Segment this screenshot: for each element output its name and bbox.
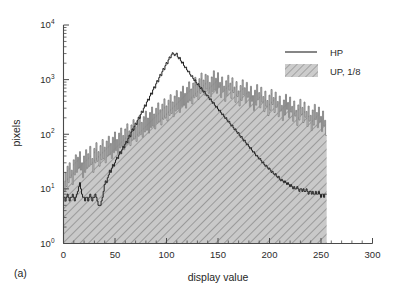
x-tick-label: 50 — [110, 249, 121, 260]
y-axis-label: pixels — [10, 120, 22, 147]
x-axis-label: display value — [188, 271, 249, 283]
legend-label-hp: HP — [330, 47, 343, 58]
x-tick-label: 300 — [365, 249, 381, 260]
x-tick-label: 150 — [210, 249, 226, 260]
x-tick-label: 0 — [61, 249, 66, 260]
figure-panel: 100101102103104 050100150200250300 pixel… — [0, 0, 408, 298]
legend-label-up: UP, 1/8 — [330, 66, 360, 77]
x-tick-label: 100 — [159, 249, 175, 260]
x-tick-label: 250 — [313, 249, 329, 260]
legend-swatch-up — [285, 64, 318, 77]
panel-label: (a) — [14, 267, 27, 279]
x-tick-label: 200 — [262, 249, 278, 260]
histogram-chart: 100101102103104 050100150200250300 pixel… — [0, 0, 408, 298]
